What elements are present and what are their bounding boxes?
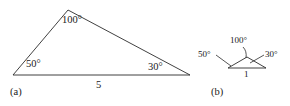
figure-drawing [0,0,290,106]
angle-label-a-apex: 100° [62,15,82,26]
leader-line-b-apex [243,47,246,58]
angle-label-a-right: 30° [148,62,163,73]
triangle-b-outline [228,57,266,68]
angle-label-b-right: 30° [265,50,278,59]
angle-label-b-apex: 100° [230,36,247,45]
panel-caption-b: (b) [211,87,223,98]
triangle-b [216,47,266,68]
base-length-label-a: 5 [96,80,101,91]
figure-container: 50° 100° 30° 5 (a) 50° 100° 30° 1 (b) [0,0,290,106]
angle-label-a-left: 50° [26,59,41,70]
angle-label-b-left: 50° [198,50,211,59]
leader-line-b-right [250,55,264,63]
panel-caption-a: (a) [10,87,22,98]
base-length-label-b: 1 [244,70,249,79]
leader-line-b-left [216,55,231,66]
